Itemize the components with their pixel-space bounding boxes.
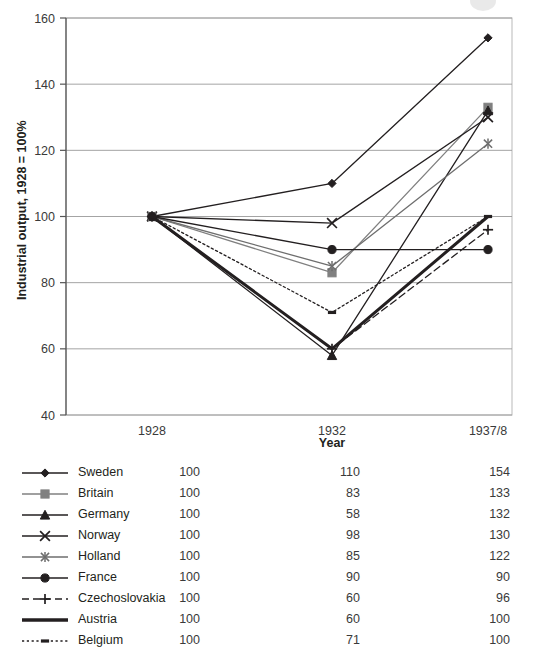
y-tick-label: 80 — [41, 276, 55, 290]
legend-value-1937: 133 — [450, 483, 510, 504]
legend-value-1932: 83 — [300, 483, 360, 504]
y-tick-label: 40 — [41, 409, 55, 423]
legend-key-sweden — [16, 462, 74, 483]
data-point-marker — [41, 574, 49, 582]
legend-key-norway — [16, 525, 74, 546]
x-tick-label: 1928 — [138, 424, 166, 438]
legend-value-1932: 90 — [300, 567, 360, 588]
legend-value-1928: 100 — [140, 462, 200, 483]
legend-row: Czechoslovakia1006096 — [0, 588, 540, 609]
chart-page: 406080100120140160 192819321937/8 Indust… — [0, 0, 540, 652]
legend-value-1937: 154 — [450, 462, 510, 483]
legend-value-1932: 60 — [300, 588, 360, 609]
legend-series-name: Germany — [78, 504, 129, 525]
legend-row: Belgium10071100 — [0, 630, 540, 651]
data-point-marker — [328, 245, 336, 253]
legend-key-germany — [16, 504, 74, 525]
legend-series-name: Britain — [78, 483, 113, 504]
data-point-marker — [484, 245, 492, 253]
y-axis-ticks — [60, 18, 66, 415]
legend-series-name: Austria — [78, 609, 117, 630]
x-axis-title: Year — [319, 436, 346, 450]
legend-row: Britain10083133 — [0, 483, 540, 504]
legend-key-britain — [16, 483, 74, 504]
legend-row: Germany10058132 — [0, 504, 540, 525]
legend-value-1937: 100 — [450, 630, 510, 651]
legend-value-1932: 98 — [300, 525, 360, 546]
legend-value-1928: 100 — [140, 525, 200, 546]
data-point-marker — [148, 215, 156, 218]
legend-value-1928: 100 — [140, 609, 200, 630]
legend-value-1928: 100 — [140, 483, 200, 504]
legend-series-name: Belgium — [78, 630, 123, 651]
data-point-marker — [484, 215, 492, 218]
legend-row: Holland10085122 — [0, 546, 540, 567]
y-tick-label: 60 — [41, 342, 55, 356]
legend-row: Norway10098130 — [0, 525, 540, 546]
data-point-marker — [41, 490, 49, 498]
legend-value-1928: 100 — [140, 546, 200, 567]
legend-key-austria — [16, 609, 74, 630]
legend-series-name: Holland — [78, 546, 120, 567]
legend-series-name: France — [78, 567, 117, 588]
legend-value-1937: 100 — [450, 609, 510, 630]
legend-value-1928: 100 — [140, 630, 200, 651]
legend-value-1932: 71 — [300, 630, 360, 651]
legend-value-1937: 132 — [450, 504, 510, 525]
legend-row: France1009090 — [0, 567, 540, 588]
legend-key-belgium — [16, 630, 74, 651]
y-tick-label: 160 — [34, 12, 55, 26]
legend-series-name: Sweden — [78, 462, 123, 483]
data-point-marker — [40, 594, 50, 604]
legend-value-1937: 96 — [450, 588, 510, 609]
legend-value-1928: 100 — [140, 567, 200, 588]
legend-value-1928: 100 — [140, 588, 200, 609]
data-point-marker — [41, 469, 49, 477]
x-tick-label: 1937/8 — [469, 424, 507, 438]
legend-series-name: Norway — [78, 525, 120, 546]
legend-key-holland — [16, 546, 74, 567]
legend-value-1937: 130 — [450, 525, 510, 546]
legend-value-1932: 58 — [300, 504, 360, 525]
legend-value-1932: 85 — [300, 546, 360, 567]
data-point-marker — [41, 639, 49, 642]
y-tick-label: 100 — [34, 210, 55, 224]
y-tick-label: 120 — [34, 144, 55, 158]
legend-value-1928: 100 — [140, 504, 200, 525]
data-point-marker — [328, 311, 336, 314]
y-axis-title: Industrial output, 1928 = 100% — [15, 120, 29, 300]
legend-key-czechoslovakia — [16, 588, 74, 609]
line-chart: 406080100120140160 192819321937/8 Indust… — [0, 0, 540, 462]
y-axis-tick-labels: 406080100120140160 — [34, 12, 55, 423]
legend-table: Sweden100110154Britain10083133Germany100… — [0, 462, 540, 651]
legend-key-france — [16, 567, 74, 588]
legend-row: Austria10060100 — [0, 609, 540, 630]
legend-value-1932: 60 — [300, 609, 360, 630]
legend-value-1937: 90 — [450, 567, 510, 588]
legend-value-1937: 122 — [450, 546, 510, 567]
legend-row: Sweden100110154 — [0, 462, 540, 483]
legend-value-1932: 110 — [300, 462, 360, 483]
y-tick-label: 140 — [34, 78, 55, 92]
